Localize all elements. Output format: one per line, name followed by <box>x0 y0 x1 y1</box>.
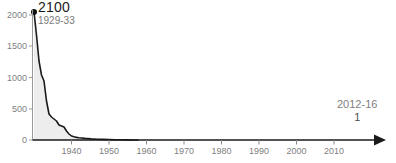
chart-figure: 0 500 1000 1500 2000 1940 1950 1960 1970… <box>0 0 396 163</box>
x-tick-label-1940: 1940 <box>54 146 90 156</box>
x-tick-label-2010: 2010 <box>316 146 352 156</box>
peak-period-label: 1929-33 <box>38 15 75 27</box>
end-annotation: 2012-16 1 <box>337 98 377 124</box>
y-tick-label-1500: 1500 <box>2 41 27 51</box>
x-axis-ticks <box>72 140 335 145</box>
x-axis-arrowhead <box>374 135 386 146</box>
end-period-label: 2012-16 <box>337 98 377 111</box>
y-tick-label-1000: 1000 <box>2 73 27 83</box>
x-tick-label-1980: 1980 <box>204 146 240 156</box>
peak-value-label: 2100 <box>38 0 75 15</box>
y-tick-label-500: 500 <box>2 104 27 114</box>
x-tick-label-1970: 1970 <box>166 146 202 156</box>
y-tick-label-2000: 2000 <box>2 10 27 20</box>
peak-marker <box>31 9 37 15</box>
x-tick-label-1950: 1950 <box>91 146 127 156</box>
y-tick-label-0: 0 <box>2 135 27 145</box>
end-value-label: 1 <box>337 111 377 124</box>
x-tick-label-1960: 1960 <box>129 146 165 156</box>
y-axis-ticks <box>29 15 33 140</box>
peak-annotation: 2100 1929-33 <box>38 0 75 27</box>
area-fill <box>34 12 138 140</box>
x-tick-label-2000: 2000 <box>279 146 315 156</box>
x-tick-label-1990: 1990 <box>241 146 277 156</box>
